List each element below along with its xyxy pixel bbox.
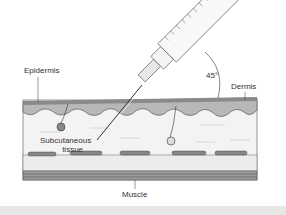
label-muscle: Muscle	[122, 190, 147, 199]
bottom-bar	[0, 206, 286, 215]
label-subcutaneous-line1: Subcutaneous	[40, 136, 91, 145]
label-subcutaneous-line2: tissue	[54, 145, 91, 154]
syringe	[132, 0, 239, 88]
label-epidermis: Epidermis	[24, 66, 60, 75]
fat-layer	[23, 155, 257, 171]
muscle-layer	[23, 171, 257, 180]
label-subcutaneous: Subcutaneous tissue	[40, 136, 91, 154]
injection-diagram	[0, 0, 286, 215]
label-dermis: Dermis	[231, 82, 256, 91]
label-angle: 45°	[206, 71, 218, 80]
